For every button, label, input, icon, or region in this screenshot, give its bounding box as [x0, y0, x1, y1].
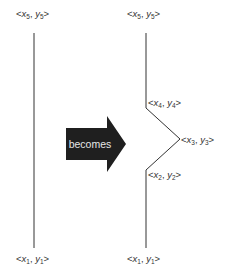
label-right-x2-y2: <x2, y2>: [148, 169, 182, 181]
right-kinked-line: [146, 33, 180, 248]
diagram-canvas: becomes <x5, y5> <x1, y1> <x5, y5> <x4, …: [0, 0, 236, 275]
label-right-x3-y3: <x3, y3>: [181, 134, 215, 146]
label-right-x5-y5: <x5, y5>: [127, 8, 161, 20]
label-left-x1-y1: <x1, y1>: [16, 253, 50, 265]
arrow-label: becomes: [69, 138, 112, 150]
label-right-x4-y4: <x4, y4>: [148, 97, 182, 109]
label-left-x5-y5: <x5, y5>: [16, 8, 50, 20]
becomes-arrow: becomes: [66, 116, 126, 172]
label-right-x1-y1: <x1, y1>: [127, 253, 161, 265]
